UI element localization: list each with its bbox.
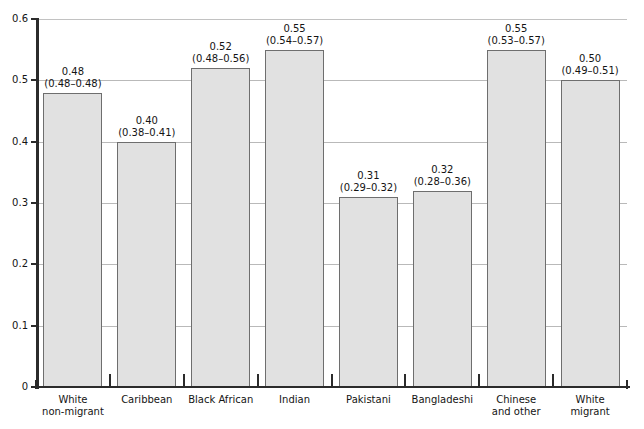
y-tick-mark-0.4 [31,141,36,143]
x-tick-mark-7 [552,374,554,387]
bar-bangladeshi[interactable] [413,191,472,387]
y-tick-label-0.5: 0.5 [0,74,28,85]
y-tick-label-0.1: 0.1 [0,320,28,331]
bar-indian[interactable] [265,50,324,387]
value-label-confidence-interval: (0.49–0.51) [547,65,633,77]
value-label-bangladeshi: 0.32(0.28–0.36) [399,164,485,188]
value-label-main: 0.50 [547,53,633,65]
y-tick-label-0.2: 0.2 [0,258,28,269]
x-tick-mark-5 [404,374,406,387]
y-tick-label-0.6: 0.6 [0,13,28,24]
value-label-white-migrant: 0.50(0.49–0.51) [547,53,633,77]
bar-pakistani[interactable] [339,197,398,387]
value-label-main: 0.55 [252,23,338,35]
value-label-confidence-interval: (0.48–0.48) [30,78,116,90]
value-label-confidence-interval: (0.53–0.57) [473,35,559,47]
y-tick-mark-0.1 [31,325,36,327]
value-label-indian: 0.55(0.54–0.57) [252,23,338,47]
plot-area [36,19,627,387]
y-tick-label-0.3: 0.3 [0,197,28,208]
bar-black-african[interactable] [191,68,250,387]
value-label-main: 0.40 [104,115,190,127]
category-label-line: migrant [543,406,637,418]
category-label-line: White [543,394,637,406]
value-label-confidence-interval: (0.38–0.41) [104,127,190,139]
y-tick-mark-0.6 [31,18,36,20]
bar-chart: 0.48(0.48–0.48)0.40(0.38–0.41)0.52(0.48–… [0,0,644,429]
x-tick-mark-6 [478,374,480,387]
x-axis-line [36,386,630,388]
y-tick-mark-0.3 [31,202,36,204]
x-tick-mark-0 [35,380,37,389]
x-tick-mark-2 [183,374,185,387]
bar-white-migrant[interactable] [561,80,620,387]
bar-chinese-and-other[interactable] [487,50,546,387]
x-tick-mark-1 [109,374,111,387]
y-tick-label-0.4: 0.4 [0,136,28,147]
value-label-confidence-interval: (0.48–0.56) [178,53,264,65]
bar-caribbean[interactable] [117,142,176,387]
value-label-caribbean: 0.40(0.38–0.41) [104,115,190,139]
value-label-chinese-and-other: 0.55(0.53–0.57) [473,23,559,47]
value-label-white-non-migrant: 0.48(0.48–0.48) [30,66,116,90]
category-label-white-migrant[interactable]: Whitemigrant [543,394,637,418]
value-label-main: 0.32 [399,164,485,176]
gridline-0.6 [36,19,627,20]
y-tick-label-0: 0 [0,381,28,392]
value-label-main: 0.48 [30,66,116,78]
value-label-confidence-interval: (0.28–0.36) [399,176,485,188]
value-label-main: 0.55 [473,23,559,35]
x-tick-mark-3 [257,374,259,387]
x-tick-mark-4 [331,374,333,387]
y-tick-mark-0.2 [31,263,36,265]
x-tick-mark-8 [626,380,628,389]
bar-white-non-migrant[interactable] [43,93,102,387]
category-label-line: non-migrant [26,406,120,418]
value-label-confidence-interval: (0.54–0.57) [252,35,338,47]
